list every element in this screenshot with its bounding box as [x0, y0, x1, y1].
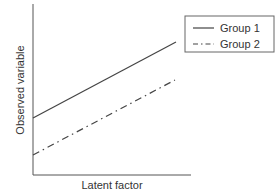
legend-label-group-1: Group 1	[220, 22, 260, 34]
legend-label-group-2: Group 2	[220, 38, 260, 50]
series-group-2-line	[33, 80, 175, 155]
y-axis-label: Observed variable	[14, 45, 26, 134]
legend: Group 1 Group 2	[185, 16, 274, 52]
series-group-1-line	[33, 42, 176, 118]
x-axis-label: Latent factor	[81, 179, 142, 191]
chart: Group 1 Group 2 Latent factor Observed v…	[0, 0, 279, 194]
